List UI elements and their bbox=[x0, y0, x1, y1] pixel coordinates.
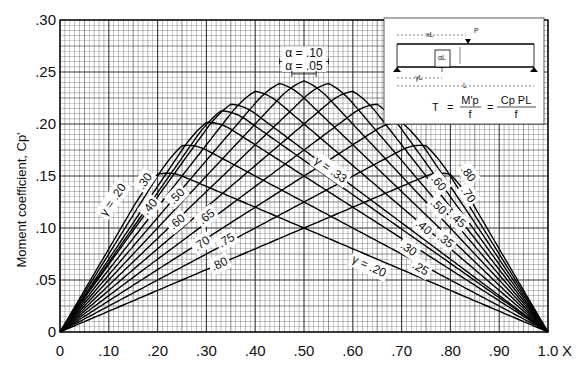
y-tick-label: .25 bbox=[35, 63, 56, 80]
yl-label: γL bbox=[415, 74, 423, 82]
y-tick-label: .30 bbox=[35, 11, 56, 28]
x-tick-label: .70 bbox=[391, 342, 412, 359]
curve-label: .30 bbox=[134, 170, 155, 192]
moment-coefficient-chart: γ = .20.30.40.50.60.65.70.75.80γ = .33.8… bbox=[0, 0, 583, 367]
t-label: T bbox=[440, 66, 445, 73]
inset-box bbox=[384, 18, 544, 124]
curve-label: .80 bbox=[458, 163, 479, 185]
y-tick-label: 0 bbox=[48, 323, 56, 340]
formula-num1: M'p bbox=[461, 94, 478, 106]
x-tick-label: .20 bbox=[147, 342, 168, 359]
x-tick-label: .30 bbox=[196, 342, 217, 359]
curve-label: .65 bbox=[195, 206, 217, 228]
y-axis-label: Moment coefficient, Cp' bbox=[14, 132, 29, 267]
y-tick-label: .10 bbox=[35, 219, 56, 236]
x-axis-label: X bbox=[562, 342, 572, 359]
y-tick-label: .15 bbox=[35, 167, 56, 184]
y-tick-label: .05 bbox=[35, 271, 56, 288]
formula-lhs: T bbox=[432, 101, 439, 113]
formula-num2: Cp PL bbox=[501, 94, 532, 106]
xl-label: xL bbox=[426, 31, 434, 38]
x-tick-label: .40 bbox=[245, 342, 266, 359]
curve-label: .60 bbox=[166, 211, 188, 233]
l-label: L bbox=[463, 82, 467, 89]
beam-inset: xLPαLTγLLT=M'pf=Cp PLf bbox=[384, 18, 544, 124]
x-tick-label: .80 bbox=[440, 342, 461, 359]
alpha-annotation: α = .05 bbox=[285, 59, 323, 73]
x-tick-label: 0 bbox=[56, 342, 64, 359]
y-tick-label: .20 bbox=[35, 115, 56, 132]
x-tick-label: 1.0 bbox=[538, 342, 559, 359]
formula-eq: = bbox=[447, 101, 453, 113]
x-tick-label: .50 bbox=[294, 342, 315, 359]
formula-eq2: = bbox=[487, 101, 493, 113]
x-tick-label: .90 bbox=[489, 342, 510, 359]
x-tick-label: .60 bbox=[342, 342, 363, 359]
x-tick-label: .10 bbox=[98, 342, 119, 359]
al-label: αL bbox=[438, 54, 446, 61]
p-label: P bbox=[474, 27, 479, 34]
